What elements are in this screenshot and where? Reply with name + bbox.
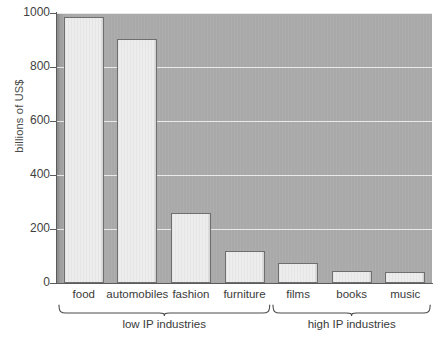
category-label-furniture: furniture <box>223 288 265 300</box>
y-tick-600 <box>50 121 56 122</box>
y-tick-label-200: 200 <box>6 221 50 235</box>
group-label-1: high IP industries <box>308 318 396 330</box>
y-tick-200 <box>50 229 56 230</box>
bar-films <box>278 263 318 283</box>
y-tick-label-0: 0 <box>6 275 50 289</box>
y-axis-line <box>56 12 57 284</box>
gridline-600 <box>57 121 432 122</box>
bar-furniture <box>225 251 265 283</box>
y-axis-ticks: 02004006008001000 <box>0 0 50 339</box>
bracket-1 <box>272 305 431 316</box>
y-tick-label-800: 800 <box>6 59 50 73</box>
bar-fashion <box>171 213 211 283</box>
category-label-automobiles: automobiles <box>106 288 168 300</box>
gridline-1000 <box>57 13 432 14</box>
bar-chart: billions of US$ 02004006008001000 foodau… <box>0 0 441 339</box>
y-tick-label-600: 600 <box>6 113 50 127</box>
gridline-800 <box>57 67 432 68</box>
bar-automobiles <box>117 39 157 283</box>
gridline-400 <box>57 175 432 176</box>
category-label-films: films <box>286 288 310 300</box>
y-tick-800 <box>50 67 56 68</box>
bar-books <box>332 271 372 283</box>
bar-music <box>385 272 425 283</box>
x-axis-line <box>56 283 433 284</box>
category-label-music: music <box>390 288 420 300</box>
y-tick-1000 <box>50 13 56 14</box>
y-tick-label-1000: 1000 <box>6 5 50 19</box>
y-tick-0 <box>50 283 56 284</box>
group-label-0: low IP industries <box>122 318 206 330</box>
y-tick-400 <box>50 175 56 176</box>
category-label-books: books <box>336 288 367 300</box>
category-label-food: food <box>73 288 95 300</box>
plot-area <box>57 13 432 283</box>
gridline-200 <box>57 229 432 230</box>
bracket-0 <box>58 305 271 316</box>
category-label-fashion: fashion <box>172 288 209 300</box>
bar-food <box>64 17 104 283</box>
y-tick-label-400: 400 <box>6 167 50 181</box>
